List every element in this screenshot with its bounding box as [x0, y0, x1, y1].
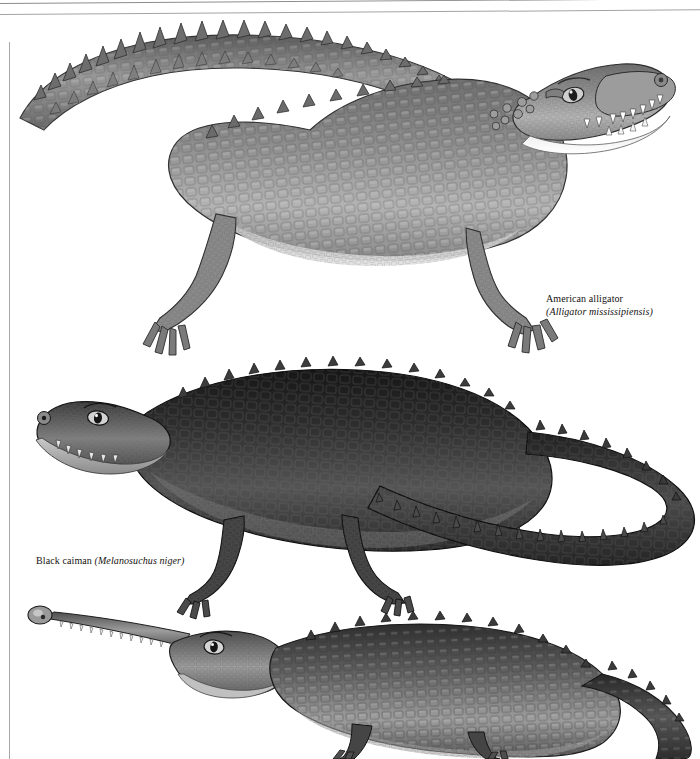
- illustration-gharial: [14, 590, 700, 759]
- reference-plate-page: American alligator (Alligator mississipi…: [0, 0, 700, 759]
- caption-black-caiman: Black caiman (Melanosuchus niger): [36, 555, 185, 568]
- caption-common-name-caiman: Black caiman: [36, 555, 95, 566]
- caption-american-alligator: American alligator (Alligator mississipi…: [546, 293, 653, 318]
- caption-scientific-name-caiman: (Melanosuchus niger): [95, 555, 185, 566]
- caption-common-name-alligator: American alligator: [546, 293, 653, 306]
- illustration-plate: [0, 0, 700, 759]
- illustration-black-caiman: [28, 352, 700, 607]
- caption-scientific-name-alligator: (Alligator mississipiensis): [546, 306, 653, 319]
